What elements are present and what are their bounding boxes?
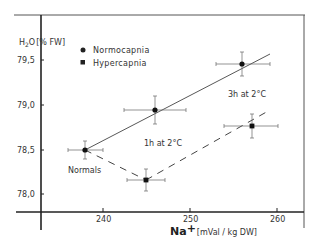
annotation-1h: 1h at 2°C (144, 139, 182, 148)
y-tick-label-79-5: 79,5 (17, 56, 35, 65)
x-tick-label-260: 260 (270, 215, 285, 224)
y-tick-label-78-0: 78,0 (17, 190, 35, 199)
legend-normocapnia-marker-icon (81, 48, 86, 53)
chart-canvas: 79,5 79,0 78,5 78,0 240 250 260 H2O[% FW… (0, 0, 321, 244)
y-tick-label-78-5: 78,5 (17, 146, 35, 155)
legend-normocapnia-label: Normocapnia (93, 46, 150, 55)
svg-text:H2O[% FW]: H2O[% FW] (19, 38, 65, 48)
x-axis-title: Na+[mVal / kg DW] (170, 222, 257, 238)
point-normocapnia-3h (216, 52, 270, 76)
legend-hypercapnia-label: Hypercapnia (93, 59, 147, 68)
y-tick-label-79-0: 79,0 (17, 101, 35, 110)
legend: Normocapnia Hypercapnia (81, 46, 150, 68)
hypercapnia-trend-line-a (85, 150, 146, 180)
annotation-3h: 3h at 2°C (228, 90, 266, 99)
annotation-normals: Normals (68, 166, 101, 175)
point-hypercapnia-3h (224, 114, 278, 138)
x-tick-label-240: 240 (96, 215, 111, 224)
y-axis-title: H2O[% FW] (19, 38, 65, 48)
svg-text:Na+[mVal / kg DW]: Na+[mVal / kg DW] (170, 222, 257, 238)
legend-hypercapnia-marker-icon (81, 60, 86, 65)
point-normocapnia-1h (124, 96, 186, 124)
